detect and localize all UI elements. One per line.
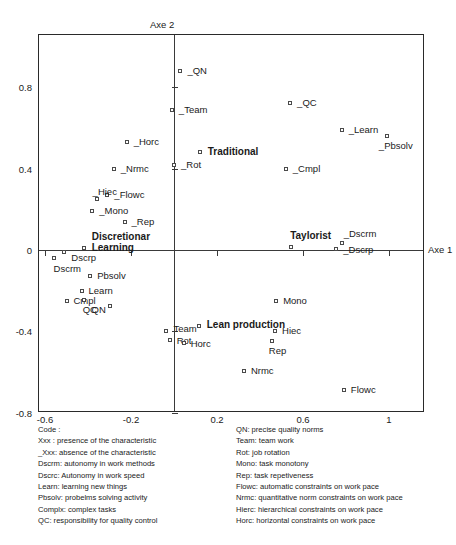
data-point-marker[interactable] xyxy=(125,140,129,144)
data-point-label: Team xyxy=(173,324,196,334)
legend-column-right: QN: precise quality normsTeam: team work… xyxy=(236,424,456,527)
data-point-label: _Rot xyxy=(181,160,201,170)
data-point-label: QN xyxy=(92,305,106,315)
legend-line: Team: team work xyxy=(236,435,456,446)
data-point-marker[interactable] xyxy=(80,289,84,293)
x-tick xyxy=(303,250,304,256)
data-point-label: Pbsolv xyxy=(97,271,126,281)
data-point-label: DiscretionarLearning xyxy=(92,231,150,253)
data-point-marker[interactable] xyxy=(242,369,246,373)
legend-line: _Xxx: absence of the characteristic xyxy=(38,447,238,458)
y-tick xyxy=(172,413,178,414)
data-point-marker[interactable] xyxy=(95,197,99,201)
data-point-marker[interactable] xyxy=(168,338,172,342)
y-tick-label: -0.4 xyxy=(8,326,32,337)
data-point-marker[interactable] xyxy=(178,69,182,73)
data-point-marker[interactable] xyxy=(164,329,168,333)
y-tick-label: 0.8 xyxy=(8,82,32,93)
data-point-label: Hiec xyxy=(282,326,301,336)
y-tick-label: 0 xyxy=(8,245,32,256)
data-point-marker[interactable] xyxy=(90,209,94,213)
legend-line: QN: precise quality norms xyxy=(236,424,456,435)
data-point-marker[interactable] xyxy=(112,167,116,171)
data-point-label: Traditional xyxy=(208,147,259,157)
data-point-label: _Dscrm xyxy=(344,229,377,239)
x-tick xyxy=(217,250,218,256)
data-point-label: _QN xyxy=(187,66,207,76)
legend-line: Hierc: hierarchical constraints on work … xyxy=(236,504,456,515)
data-point-marker[interactable] xyxy=(288,101,292,105)
data-point-marker[interactable] xyxy=(182,341,186,345)
data-point-label: _Team xyxy=(179,105,208,115)
data-point-label: _Nrmc xyxy=(121,164,149,174)
y-tick xyxy=(172,169,178,170)
data-point-label: Taylorist xyxy=(290,231,331,241)
data-point-marker[interactable] xyxy=(82,298,86,302)
data-point-label: Dscrm xyxy=(54,264,81,274)
legend-line: Nrmc: quantitative norm constraints on w… xyxy=(236,492,456,503)
data-point-marker[interactable] xyxy=(88,274,92,278)
y-tick-label: 0.4 xyxy=(8,163,32,174)
data-point-label: Flowc xyxy=(351,385,376,395)
data-point-marker[interactable] xyxy=(123,220,127,224)
y-tick xyxy=(172,87,178,88)
data-point-marker[interactable] xyxy=(342,388,346,392)
legend-line: Horc: horizontal constraints on work pac… xyxy=(236,515,456,526)
legend-column-left: Code :Xxx : presence of the characterist… xyxy=(38,424,238,527)
data-point-marker[interactable] xyxy=(108,304,112,308)
y-tick-label: -0.8 xyxy=(8,407,32,418)
correspondence-analysis-figure: Axe 2 Axe 1 -0.6-0.20.20.610.80.40-0.4-0… xyxy=(0,0,456,545)
data-point-marker[interactable] xyxy=(65,299,69,303)
y-axis-line xyxy=(174,35,175,411)
data-point-label: _Hiec xyxy=(93,187,117,197)
legend-line: Rep: task repetiveness xyxy=(236,470,456,481)
data-point-marker[interactable] xyxy=(284,167,288,171)
x-tick xyxy=(45,250,46,256)
data-point-label: _Mono xyxy=(99,206,128,216)
data-point-marker[interactable] xyxy=(334,247,338,251)
legend-line: QC: responsibility for quality control xyxy=(38,515,238,526)
data-point-label: _QC xyxy=(297,98,317,108)
legend-line: Code : xyxy=(38,424,238,435)
code-legend: Code :Xxx : presence of the characterist… xyxy=(0,424,456,545)
data-point-label: Nrmc xyxy=(251,366,274,376)
legend-line: Pbsolv: probelms solving activity xyxy=(38,492,238,503)
data-point-marker[interactable] xyxy=(289,245,293,249)
legend-line: Rot: job rotation xyxy=(236,447,456,458)
x-tick xyxy=(389,250,390,256)
data-point-label: _Learn xyxy=(349,125,379,135)
data-point-marker[interactable] xyxy=(270,339,274,343)
legend-line: Xxx : presence of the characteristic xyxy=(38,435,238,446)
data-point-label: _Horc xyxy=(134,137,159,147)
legend-line: Complx: complex tasks xyxy=(38,504,238,515)
x-axis-title: Axe 1 xyxy=(428,244,452,255)
data-point-label: _Flowc xyxy=(114,190,144,200)
data-point-label: _Cmpl xyxy=(293,164,320,174)
legend-line: Learn: learning new things xyxy=(38,481,238,492)
legend-line: Mono: task monotony xyxy=(236,458,456,469)
legend-line: Dscrm: autonomy in work methods xyxy=(38,458,238,469)
legend-line: Dscrc: Autonomy in work speed xyxy=(38,470,238,481)
data-point-label: _Rep xyxy=(132,217,155,227)
data-point-label: Horc xyxy=(191,339,211,349)
y-axis-title: Axe 2 xyxy=(150,19,174,30)
data-point-marker[interactable] xyxy=(82,246,86,250)
data-point-marker[interactable] xyxy=(62,250,66,254)
data-point-marker[interactable] xyxy=(198,150,202,154)
data-point-marker[interactable] xyxy=(197,324,201,328)
data-point-label: Mono xyxy=(283,296,307,306)
data-point-marker[interactable] xyxy=(385,134,389,138)
data-point-label: _Dscrp xyxy=(343,245,373,255)
data-point-marker[interactable] xyxy=(274,299,278,303)
data-point-label: _Pbsolv xyxy=(379,141,413,151)
data-point-marker[interactable] xyxy=(52,256,56,260)
data-point-marker[interactable] xyxy=(172,163,176,167)
data-point-marker[interactable] xyxy=(273,329,277,333)
data-point-label: Rep xyxy=(269,346,286,356)
legend-line: Flowc: automatic constraints on work pac… xyxy=(236,481,456,492)
data-point-marker[interactable] xyxy=(170,108,174,112)
data-point-label: Dscrp xyxy=(71,253,96,263)
plot-frame xyxy=(38,34,424,412)
data-point-marker[interactable] xyxy=(340,128,344,132)
